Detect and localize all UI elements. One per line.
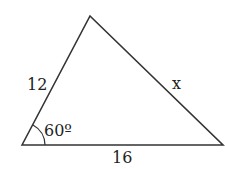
side-base-label: 16 bbox=[112, 148, 132, 167]
side-left-label: 12 bbox=[27, 75, 47, 94]
angle-label: 60º bbox=[44, 121, 72, 140]
triangle-diagram: 12 x 60º 16 bbox=[0, 0, 225, 169]
side-right-label: x bbox=[172, 74, 181, 93]
